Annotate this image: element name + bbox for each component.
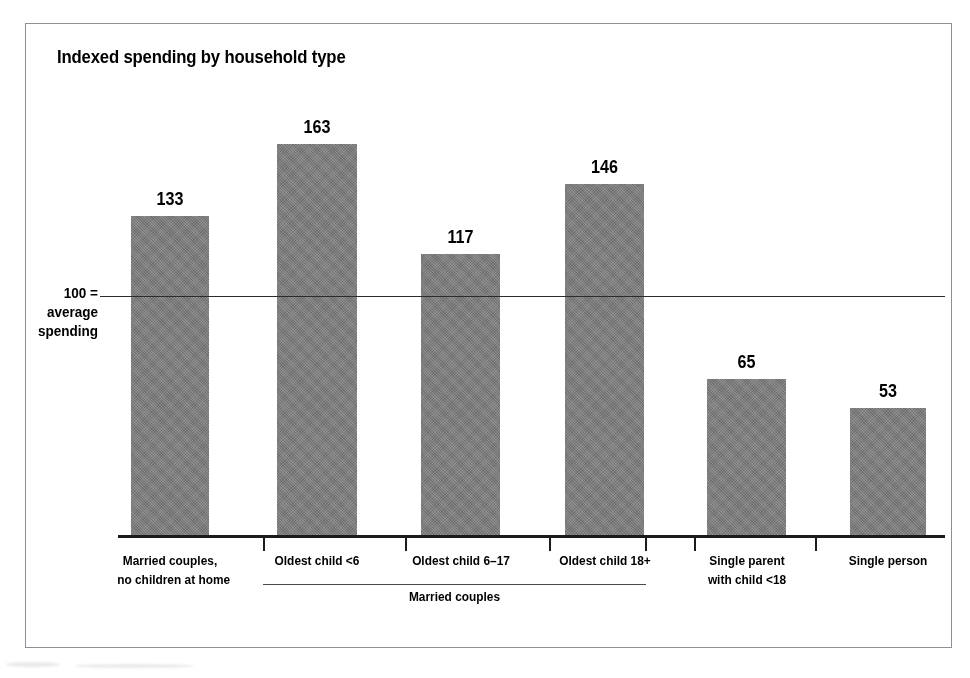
scan-artifact-left [6, 662, 60, 667]
chart-title: Indexed spending by household type [57, 46, 346, 68]
scan-artifact-middle [74, 664, 194, 668]
chart-frame [25, 23, 952, 648]
